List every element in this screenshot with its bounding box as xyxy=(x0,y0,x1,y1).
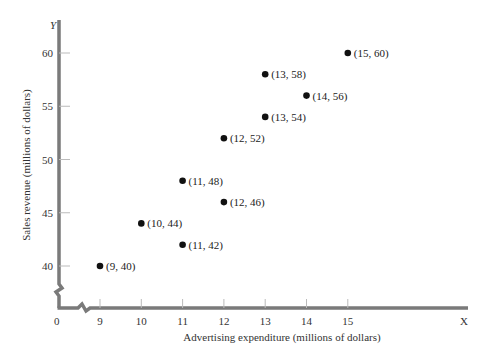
data-point: (13, 54) xyxy=(262,111,306,124)
x-tick-label: 10 xyxy=(136,315,148,327)
x-axis-letter: X xyxy=(460,315,468,327)
point-marker xyxy=(262,71,269,78)
data-point: (15, 60) xyxy=(345,47,389,60)
ticks: 40455055609101112131415 xyxy=(42,47,354,327)
x-tick-label: 15 xyxy=(342,315,354,327)
y-tick-label: 40 xyxy=(42,260,54,272)
data-point: (10, 44) xyxy=(138,217,182,230)
scatter-chart: 40455055609101112131415 (9, 40)(10, 44)(… xyxy=(0,0,491,358)
point-label: (13, 54) xyxy=(271,111,306,124)
point-marker xyxy=(138,220,145,227)
y-tick-label: 50 xyxy=(42,154,54,166)
point-marker xyxy=(262,114,269,121)
data-point: (13, 58) xyxy=(262,68,306,81)
point-marker xyxy=(179,241,186,248)
x-axis-line xyxy=(58,304,469,311)
point-marker xyxy=(303,92,310,99)
data-point: (11, 42) xyxy=(179,239,223,252)
y-tick-label: 45 xyxy=(42,207,54,219)
x-tick-label: 12 xyxy=(218,315,229,327)
point-label: (11, 42) xyxy=(189,239,224,252)
data-point: (14, 56) xyxy=(303,90,347,103)
data-point: (12, 46) xyxy=(221,196,265,209)
y-axis-letter: Y xyxy=(50,19,58,31)
x-tick-label: 9 xyxy=(97,315,103,327)
y-axis-line xyxy=(56,20,62,308)
point-label: (10, 44) xyxy=(147,217,182,230)
point-label: (12, 52) xyxy=(230,132,265,145)
y-tick-label: 55 xyxy=(42,100,54,112)
data-point: (11, 48) xyxy=(179,175,223,188)
point-label: (15, 60) xyxy=(354,47,389,60)
point-label: (14, 56) xyxy=(313,90,348,103)
y-axis-title: Sales revenue (millions of dollars) xyxy=(20,89,33,241)
point-marker xyxy=(221,199,228,206)
x-tick-label: 13 xyxy=(260,315,272,327)
point-marker xyxy=(179,178,186,185)
point-marker xyxy=(345,50,352,57)
data-points: (9, 40)(10, 44)(11, 42)(11, 48)(12, 46)(… xyxy=(97,47,389,273)
x-tick-label: 11 xyxy=(177,315,188,327)
point-label: (9, 40) xyxy=(106,260,136,273)
point-marker xyxy=(97,263,104,270)
x-axis-title: Advertising expenditure (millions of dol… xyxy=(183,331,381,344)
origin-label: 0 xyxy=(54,315,60,327)
point-marker xyxy=(221,135,228,142)
point-label: (12, 46) xyxy=(230,196,265,209)
y-tick-label: 60 xyxy=(42,47,54,59)
data-point: (9, 40) xyxy=(97,260,136,273)
x-tick-label: 14 xyxy=(301,315,313,327)
point-label: (13, 58) xyxy=(271,68,306,81)
point-label: (11, 48) xyxy=(189,175,224,188)
data-point: (12, 52) xyxy=(221,132,265,145)
